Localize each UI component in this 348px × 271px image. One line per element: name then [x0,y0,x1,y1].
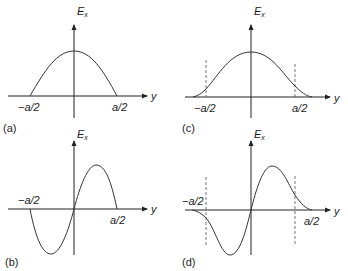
tick-left: −a/2 [182,195,204,207]
tick-right: a/2 [110,214,125,226]
field-curve [193,52,312,97]
tick-right: a/2 [292,102,307,114]
y-axis-label: Ex [77,128,88,141]
x-axis-label: y [150,203,158,215]
panel-tag: (c) [182,122,195,134]
tick-right: a/2 [112,101,127,113]
field-mode-diagram: Ex y −a/2 a/2 (a) Ex y −a/2 a/2 (c) Ex y… [0,0,348,271]
panel-c: Ex y −a/2 a/2 (c) [182,5,341,134]
panel-tag: (a) [3,122,16,134]
tick-right: a/2 [304,215,319,227]
y-axis-label: Ex [77,5,88,18]
panel-a: Ex y −a/2 a/2 (a) [3,5,158,134]
x-axis-label: y [333,205,341,217]
x-axis-label: y [333,92,341,104]
tick-left: −a/2 [194,102,216,114]
panel-tag: (d) [182,256,195,268]
panel-tag: (b) [5,256,18,268]
panel-b: Ex y −a/2 a/2 (b) [5,128,158,268]
tick-left: −a/2 [18,101,40,113]
y-axis-label: Ex [254,128,265,141]
panel-d: Ex y −a/2 a/2 (d) [182,128,341,268]
y-axis-label: Ex [254,5,265,18]
tick-left: −a/2 [18,194,40,206]
x-axis-label: y [150,90,158,102]
